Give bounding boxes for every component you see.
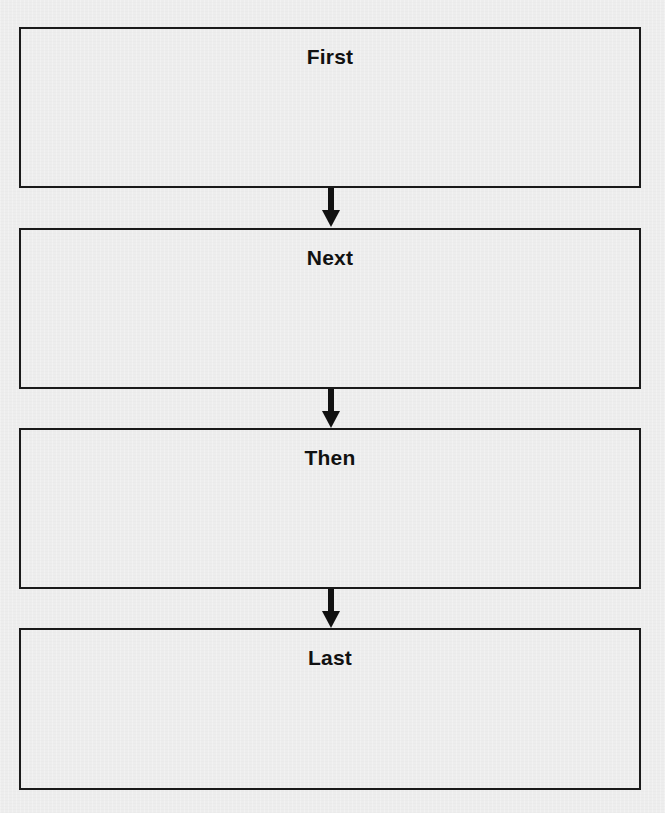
step-label-then: Then bbox=[21, 446, 639, 470]
step-label-next: Next bbox=[21, 246, 639, 270]
step-box-next: Next bbox=[19, 228, 641, 389]
step-label-first: First bbox=[21, 45, 639, 69]
step-box-last: Last bbox=[19, 628, 641, 790]
step-label-last: Last bbox=[21, 646, 639, 670]
step-box-first: First bbox=[19, 27, 641, 188]
step-box-then: Then bbox=[19, 428, 641, 589]
